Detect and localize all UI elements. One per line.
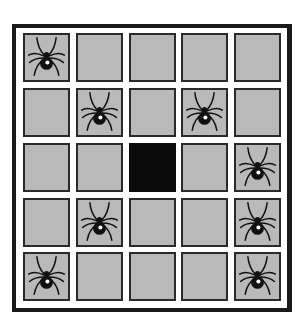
board-cell-r5-c3[interactable] (129, 252, 176, 301)
spider-icon (236, 200, 279, 245)
board-cell-r5-c4[interactable] (181, 252, 228, 301)
spider-icon (236, 145, 279, 190)
board-cell-r1-c5[interactable] (234, 33, 281, 82)
board-cell-r5-c1[interactable] (23, 252, 70, 301)
board-cell-r4-c5[interactable] (234, 198, 281, 247)
board-cell-r5-c5[interactable] (234, 252, 281, 301)
board-cell-r2-c3[interactable] (129, 88, 176, 137)
board-cell-r3-c2[interactable] (76, 143, 123, 192)
board-cell-r2-c1[interactable] (23, 88, 70, 137)
spider-icon (78, 200, 121, 245)
board-cell-r2-c4[interactable] (181, 88, 228, 137)
board-cell-r2-c2[interactable] (76, 88, 123, 137)
board-cell-r1-c2[interactable] (76, 33, 123, 82)
board-cell-r1-c1[interactable] (23, 33, 70, 82)
board-cell-r3-c4[interactable] (181, 143, 228, 192)
spider-icon (25, 35, 68, 80)
board-cell-r2-c5[interactable] (234, 88, 281, 137)
board-cell-r5-c2[interactable] (76, 252, 123, 301)
board-cell-r1-c4[interactable] (181, 33, 228, 82)
board-cell-r4-c3[interactable] (129, 198, 176, 247)
game-board (12, 24, 292, 312)
spider-icon (183, 90, 226, 135)
spider-icon (78, 90, 121, 135)
spider-icon (25, 254, 68, 299)
board-cell-r4-c4[interactable] (181, 198, 228, 247)
board-cell-r4-c2[interactable] (76, 198, 123, 247)
board-cell-r3-c5[interactable] (234, 143, 281, 192)
board-cell-r3-c3[interactable] (129, 143, 176, 192)
board-cell-r1-c3[interactable] (129, 33, 176, 82)
spider-icon (236, 254, 279, 299)
board-cell-r4-c1[interactable] (23, 198, 70, 247)
board-cell-r3-c1[interactable] (23, 143, 70, 192)
